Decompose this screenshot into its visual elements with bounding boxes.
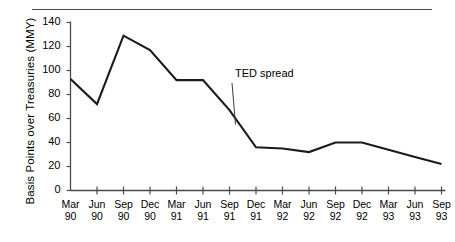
data-series-ted-spread xyxy=(71,36,442,164)
axes xyxy=(71,22,446,191)
axis-ticks xyxy=(67,23,442,195)
leader-line xyxy=(232,83,236,125)
annotation-ted-spread: TED spread xyxy=(235,67,294,79)
annotation-leader-line xyxy=(232,83,236,125)
ted-spread-line xyxy=(71,36,442,164)
